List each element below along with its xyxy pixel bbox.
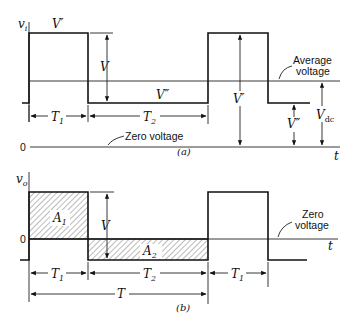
caption-b: (b) <box>176 302 190 313</box>
average-voltage-pointer <box>279 66 292 79</box>
figure-a: vi 0 t V′ V V″ T1 T2 V′ V″ <box>18 17 340 163</box>
y-axis-label-b: vo <box>16 172 28 188</box>
v-prime-right-label: V′ <box>233 92 245 106</box>
waveform-diagram: vi 0 t V′ V V″ T1 T2 V′ V″ <box>0 0 355 330</box>
x-axis-label-a: t <box>334 149 339 163</box>
figure-b: vo 0 t A1 A2 V T1 T2 T1 <box>16 172 338 313</box>
zero-level-label-b: 0 <box>20 233 26 245</box>
y-axis-label-a: vi <box>18 17 28 33</box>
zero-voltage-label: Zero voltage <box>125 130 184 142</box>
average-voltage-label-2: voltage <box>296 65 330 77</box>
v-swing-label: V <box>100 60 110 74</box>
x-axis-label-b: t <box>328 239 333 253</box>
v-double-prime-right-label: V″ <box>287 117 301 131</box>
zero-level-label-a: 0 <box>20 141 26 153</box>
caption-a: (a) <box>177 146 191 157</box>
period-label: T <box>117 287 126 301</box>
v-swing-label-b: V <box>101 219 111 233</box>
v-prime-label: V′ <box>52 17 64 31</box>
v-double-prime-label: V″ <box>156 88 170 102</box>
zero-voltage-pointer <box>108 136 124 145</box>
zero-voltage-pointer-b <box>278 222 292 237</box>
zero-voltage-label-b-2: voltage <box>295 219 329 231</box>
